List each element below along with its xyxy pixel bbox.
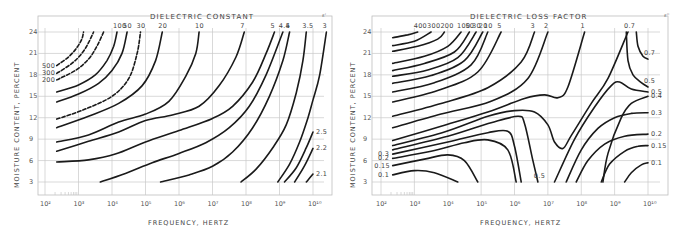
x-tick-label: 10⁵ bbox=[476, 200, 487, 208]
curve-label: 0.7 bbox=[644, 49, 655, 57]
curve-label: 400 bbox=[414, 22, 427, 30]
y-tick-label: 3 bbox=[29, 178, 33, 186]
contour-curve-100 bbox=[393, 32, 461, 63]
curve-label: 0.15 bbox=[374, 162, 390, 170]
x-tick-label: 10⁹ bbox=[610, 200, 621, 208]
curve-label: 200 bbox=[42, 76, 55, 84]
x-tick-label: 10³ bbox=[409, 200, 420, 208]
curve-label: 300 bbox=[427, 22, 440, 30]
left-chart-symbol: ε' bbox=[322, 12, 326, 18]
curve-label: 30 bbox=[136, 22, 145, 30]
y-tick-label: 21 bbox=[29, 49, 37, 57]
y-tick-label: 12 bbox=[363, 114, 371, 122]
x-tick-label: 10⁹ bbox=[275, 200, 286, 208]
y-tick-label: 18 bbox=[29, 71, 37, 79]
x-tick-label: 10¹⁰ bbox=[308, 200, 322, 208]
contour-curve-4-5 bbox=[100, 32, 283, 182]
figure-canvas: 10²10³10⁴10⁵10⁶10⁷10⁸10⁹10¹⁰369121518212… bbox=[0, 0, 676, 238]
contour-curve-10 bbox=[57, 32, 199, 142]
curve-label: 2.5 bbox=[316, 128, 327, 136]
curve-label: 0.3 bbox=[651, 109, 662, 117]
x-tick-label: 10⁷ bbox=[543, 200, 554, 208]
x-tick-label: 10⁷ bbox=[208, 200, 219, 208]
curve-label: 3 bbox=[531, 22, 535, 30]
contour-curve-30 bbox=[57, 32, 141, 119]
y-tick-label: 6 bbox=[29, 157, 33, 165]
y-tick-label: 24 bbox=[363, 28, 371, 36]
left-x-axis-title: FREQUENCY, HERTZ bbox=[148, 219, 229, 227]
dielectric-constant-chart: 10²10³10⁴10⁵10⁶10⁷10⁸10⁹10¹⁰369121518212… bbox=[29, 16, 332, 208]
curve-label: 10 bbox=[195, 22, 204, 30]
right-y-axis-title: MOISTURE CONTENT, PERCENT bbox=[349, 62, 357, 188]
right-x-axis-title: FREQUENCY, HERTZ bbox=[480, 219, 561, 227]
y-tick-label: 18 bbox=[363, 71, 371, 79]
curve-label: 1 bbox=[581, 22, 585, 30]
y-tick-label: 15 bbox=[363, 92, 371, 100]
contour-curve-300 bbox=[57, 32, 94, 73]
contour-curve-2-1 bbox=[306, 174, 313, 182]
contour-curve-0-7 bbox=[393, 32, 628, 149]
curve-label: 4 bbox=[286, 22, 290, 30]
contour-curve-0-1 bbox=[625, 163, 648, 182]
x-tick-label: 10¹⁰ bbox=[643, 200, 657, 208]
curve-label: 3.5 bbox=[302, 22, 313, 30]
y-tick-label: 9 bbox=[363, 135, 367, 143]
curve-label: 20 bbox=[158, 22, 167, 30]
curve-label: 0.1 bbox=[378, 171, 389, 179]
x-tick-label: 10⁶ bbox=[510, 200, 521, 208]
contour-curve-3 bbox=[393, 32, 535, 116]
left-chart-title: DIELECTRIC CONSTANT bbox=[150, 13, 254, 21]
x-tick-label: 10⁸ bbox=[576, 200, 587, 208]
curve-label: 0.5 bbox=[644, 77, 655, 85]
curve-label: 2 bbox=[544, 22, 548, 30]
curve-label: 0.1 bbox=[651, 159, 662, 167]
y-tick-label: 3 bbox=[363, 178, 367, 186]
y-tick-label: 9 bbox=[29, 135, 33, 143]
x-tick-label: 10⁴ bbox=[107, 200, 118, 208]
contour-curve-0-15 bbox=[393, 155, 478, 182]
curve-label: 7 bbox=[240, 22, 244, 30]
x-tick-label: 10⁵ bbox=[141, 200, 152, 208]
contour-curve-500 bbox=[57, 32, 84, 66]
contour-curve-400 bbox=[393, 32, 418, 38]
contour-curve-200 bbox=[393, 32, 445, 51]
x-tick-label: 10² bbox=[40, 200, 51, 208]
curve-label: 2.1 bbox=[316, 170, 327, 178]
curve-label: 0.7 bbox=[624, 22, 635, 30]
y-tick-label: 12 bbox=[29, 114, 37, 122]
dielectric-loss-factor-chart: 10²10³10⁴10⁵10⁶10⁷10⁸10⁹10¹⁰369121518212… bbox=[363, 16, 668, 208]
y-tick-label: 15 bbox=[29, 92, 37, 100]
y-tick-label: 6 bbox=[363, 157, 367, 165]
contour-curve-0-5 bbox=[555, 82, 649, 182]
left-y-axis-title: MOISTURE CONTENT, PERCENT bbox=[13, 62, 21, 188]
curve-label: 10 bbox=[484, 22, 493, 30]
curve-label: 5 bbox=[497, 22, 501, 30]
y-tick-label: 21 bbox=[363, 49, 371, 57]
x-tick-label: 10⁶ bbox=[174, 200, 185, 208]
curve-label: 3 bbox=[322, 22, 326, 30]
x-tick-label: 10⁴ bbox=[443, 200, 454, 208]
curve-label: 0.5 bbox=[534, 172, 545, 180]
right-chart-title: DIELECTRIC LOSS FACTOR bbox=[470, 13, 588, 21]
contour-curve-10 bbox=[393, 32, 488, 92]
curve-label: 50 bbox=[123, 22, 132, 30]
x-tick-label: 10⁸ bbox=[241, 200, 252, 208]
curve-label: 2.2 bbox=[316, 144, 327, 152]
curve-label: 0.4 bbox=[651, 92, 662, 100]
curve-label: 500 bbox=[42, 62, 55, 70]
x-tick-label: 10³ bbox=[74, 200, 85, 208]
x-tick-label: 10² bbox=[376, 200, 387, 208]
y-tick-label: 24 bbox=[29, 28, 37, 36]
curve-label: 200 bbox=[440, 22, 453, 30]
contour-curve-4 bbox=[161, 32, 290, 182]
right-chart-symbol: ε'' bbox=[664, 12, 669, 18]
curve-label: 0.15 bbox=[651, 142, 667, 150]
curve-label: 5 bbox=[270, 22, 274, 30]
curve-label: 0.2 bbox=[651, 130, 662, 138]
